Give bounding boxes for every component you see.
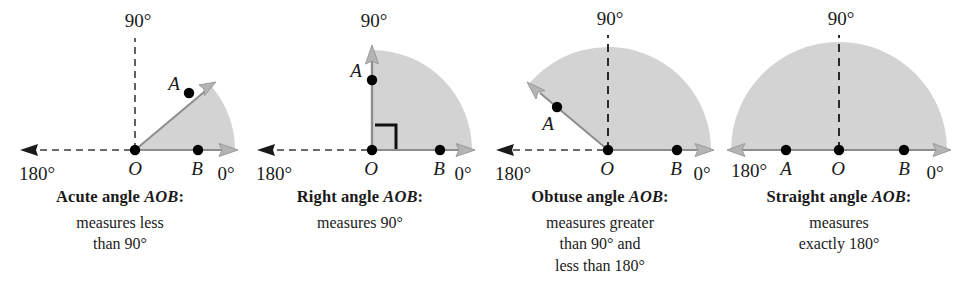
acute-caption-line-1: measures less — [0, 212, 240, 233]
left-arrowhead-icon — [20, 144, 38, 156]
label-point-b: B — [433, 158, 445, 179]
label-0-degrees: 0° — [693, 163, 710, 184]
panel-right-angle: 90° 180° 0° A O B Right angle AOB: measu… — [240, 0, 480, 293]
label-point-o: O — [364, 158, 378, 179]
label-180-degrees: 180° — [256, 163, 292, 184]
obtuse-caption-title-prefix: Obtuse angle — [531, 187, 629, 206]
acute-angle-diagram: 90° 180° 0° A O B — [0, 0, 240, 185]
point-b-marker — [435, 145, 445, 155]
point-b-marker — [193, 145, 203, 155]
label-180-degrees: 180° — [731, 160, 767, 181]
obtuse-angle-diagram: 90° 180° 0° A O B — [480, 0, 720, 185]
left-arrowhead-icon — [496, 144, 514, 156]
label-point-o: O — [128, 158, 142, 179]
right-caption-title-prefix: Right angle — [297, 187, 383, 206]
obtuse-caption-line-1: measures greater — [480, 212, 720, 233]
straight-caption-title: Straight angle AOB: — [719, 186, 959, 208]
straight-caption-title-prefix: Straight angle — [767, 187, 872, 206]
panel-straight-angle: 90° 180° 0° A O B Straight angle AOB: me… — [719, 0, 959, 293]
point-o-marker — [367, 145, 377, 155]
label-point-b: B — [670, 158, 682, 179]
label-point-a: A — [348, 60, 362, 81]
point-b-marker — [672, 145, 682, 155]
right-caption-line-1: measures 90° — [240, 212, 480, 233]
acute-caption-line-2: than 90° — [0, 233, 240, 254]
label-point-b: B — [191, 158, 203, 179]
label-point-a: A — [778, 158, 792, 179]
right-caption-title-suffix: : — [418, 187, 424, 206]
acute-caption-title: Acute angle AOB: — [0, 186, 240, 208]
label-180-degrees: 180° — [495, 163, 531, 184]
obtuse-caption-angle-name: AOB — [629, 187, 663, 206]
acute-caption-body: measures less than 90° — [0, 212, 240, 255]
left-arrowhead-icon — [257, 144, 275, 156]
label-90-degrees: 90° — [361, 10, 388, 31]
right-sector-shading — [372, 50, 472, 150]
point-a-marker — [781, 145, 791, 155]
label-0-degrees: 0° — [926, 162, 943, 183]
right-caption-title: Right angle AOB: — [240, 186, 480, 208]
label-point-b: B — [898, 158, 910, 179]
angle-types-figure: 90° 180° 0° A O B Acute angle AOB: measu… — [0, 0, 959, 293]
label-0-degrees: 0° — [454, 163, 471, 184]
point-a-marker — [552, 102, 562, 112]
label-point-o: O — [831, 158, 845, 179]
straight-caption-line-1: measures — [719, 212, 959, 233]
label-90-degrees: 90° — [597, 8, 624, 29]
label-90-degrees: 90° — [828, 8, 855, 29]
point-a-marker — [367, 75, 377, 85]
acute-caption-angle-name: AOB — [144, 187, 178, 206]
straight-caption-line-2: exactly 180° — [719, 233, 959, 254]
label-180-degrees: 180° — [19, 163, 55, 184]
right-caption-body: measures 90° — [240, 212, 480, 233]
point-b-marker — [899, 145, 909, 155]
obtuse-caption-title-suffix: : — [663, 187, 669, 206]
label-point-a: A — [166, 73, 180, 94]
label-90-degrees: 90° — [125, 10, 152, 31]
straight-caption-title-suffix: : — [906, 187, 912, 206]
obtuse-caption-line-2: than 90° and — [480, 233, 720, 254]
straight-caption-angle-name: AOB — [872, 187, 906, 206]
panel-acute-angle: 90° 180° 0° A O B Acute angle AOB: measu… — [0, 0, 240, 293]
label-0-degrees: 0° — [217, 163, 234, 184]
point-o-marker — [130, 145, 140, 155]
point-a-marker — [184, 88, 194, 98]
label-point-a: A — [540, 113, 554, 134]
obtuse-sector-shading — [529, 47, 711, 150]
right-caption-angle-name: AOB — [383, 187, 417, 206]
obtuse-caption-title: Obtuse angle AOB: — [480, 186, 720, 208]
label-point-o: O — [600, 158, 614, 179]
obtuse-caption-body: measures greater than 90° and less than … — [480, 212, 720, 276]
acute-caption-title-prefix: Acute angle — [56, 187, 144, 206]
straight-caption-body: measures exactly 180° — [719, 212, 959, 255]
acute-caption-title-suffix: : — [178, 187, 184, 206]
straight-angle-diagram: 90° 180° 0° A O B — [719, 0, 959, 185]
right-angle-diagram: 90° 180° 0° A O B — [240, 0, 480, 185]
panel-obtuse-angle: 90° 180° 0° A O B Obtuse angle AOB: meas… — [480, 0, 720, 293]
point-o-marker — [834, 145, 844, 155]
obtuse-caption-line-3: less than 180° — [480, 255, 720, 276]
point-o-marker — [603, 145, 613, 155]
